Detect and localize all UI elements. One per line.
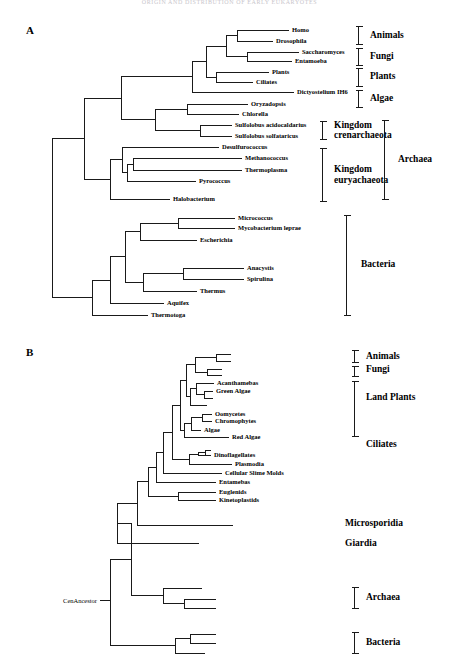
tip-label: Dinoflagellates [214,452,255,459]
group-label: Animals [370,31,404,41]
group-label: Fungi [366,365,390,375]
group-label: Bacteria [366,638,400,648]
group-bracket [322,121,323,140]
group-bracket [354,632,355,654]
group-label: Archaea [398,155,432,165]
tip-label: Kinetoplastids [219,497,259,504]
tip-label: Thermus [200,288,225,295]
tip-label: Thermotoga [151,312,185,319]
group-label: Animals [366,352,400,362]
group-bracket [354,587,355,609]
group-label: Archaea [366,593,400,603]
tip-label: Chlorella [242,111,268,118]
group-bracket [354,381,355,437]
group-label: Land Plants [366,393,415,403]
group-label: Microsporidia [345,519,403,529]
group-label: Bacteria [361,260,395,270]
group-bracket [358,90,359,108]
tip-label: Sulfolobus solfataricus [235,133,298,140]
tip-label: Aquifex [167,300,189,307]
group-label: Ciliates [366,440,397,450]
group-bracket [358,26,359,45]
tip-label: Plasmodia [235,461,264,468]
tip-label: Sulfolobus acidocaldarius [235,122,306,129]
cenancestor-label: CenAncestor [63,597,97,604]
tip-label: Micrococcus [238,215,273,222]
group-bracket [354,366,355,377]
tip-label: Oryzadopsis [251,101,286,108]
tip-label: Ciliates [256,79,277,86]
group-bracket [358,68,359,87]
tip-label: Anacystis [247,265,274,272]
tip-label: Mycobacterium leprae [238,225,301,232]
tip-label: Drosophila [276,38,307,45]
tip-label: Euglenids [219,489,246,496]
tip-label: Halobacterium [173,196,215,203]
tip-label: Green Algae [216,388,250,395]
tip-label: Algae [204,427,220,434]
group-bracket [346,215,347,316]
group-label: Giardia [345,539,377,549]
tip-label: Desulfurococcus [222,144,267,151]
tip-label: Escherichia [200,237,233,244]
tip-label: Entamebas [219,479,250,486]
group-bracket [384,120,385,200]
tip-label: Dictyostelium IH6 [297,89,348,96]
group-label: Plants [370,72,395,82]
figure-page: ORIGIN AND DISTRIBUTION OF EARLY EUKARYO… [0,0,459,670]
tip-label: Homo [292,27,309,34]
group-label: Fungi [370,52,394,62]
tip-label: Thermoplasma [245,167,287,174]
group-bracket [354,350,355,363]
tip-label: Plants [272,69,289,76]
tip-label: Cellular Slime Molds [225,470,284,477]
group-bracket [322,148,323,202]
tip-label: Entamoeba [295,58,327,65]
tip-label: Chromophytes [215,418,256,425]
group-bracket [358,48,359,66]
tip-label: Methanococcus [245,155,288,162]
tip-label: Pyrococcus [199,178,230,185]
tip-label: Spirulina [247,276,273,283]
tip-label: Red Algae [232,434,260,441]
tip-label: Acanthamebas [217,380,258,387]
group-label: Kingdomeuryachaeota [334,164,388,185]
group-label: Algae [370,94,393,104]
tip-label: Saccharomyces [302,49,344,56]
